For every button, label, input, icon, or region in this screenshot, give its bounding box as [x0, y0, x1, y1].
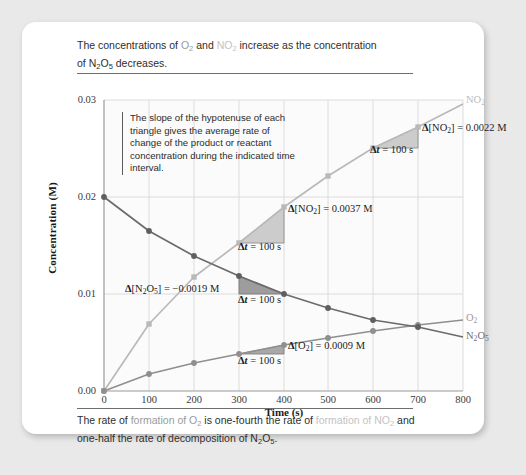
y-tick-002: 0.02 — [62, 191, 96, 202]
footer-text-c: and — [394, 414, 414, 426]
x-tick-200: 200 — [179, 394, 209, 405]
y-tick-003: 0.03 — [62, 94, 96, 105]
annotation-dt-no2-late: Δt = 100 s — [370, 144, 413, 155]
annotation-dt-o2-mid: Δt = 100 s — [238, 355, 281, 366]
annotation-delta-no2-mid: Δ[NO2] = 0.0037 M — [288, 203, 373, 216]
annotation-delta-no2-late: Δ[NO2] = 0.0022 M — [422, 122, 507, 135]
x-tick-400: 400 — [269, 394, 299, 405]
footer-formation-no2: formation of NO2 — [316, 414, 394, 426]
y-axis-title: Concentration (M) — [46, 158, 58, 298]
annotation-delta-n2o5-mid: Δ[N2O5] = −0.0019 M — [125, 283, 219, 296]
footer-text-b: is one-fourth the rate of — [201, 414, 315, 426]
annotation-dt-no2-mid: Δt = 100 s — [238, 241, 281, 252]
x-tick-300: 300 — [224, 394, 254, 405]
curve-label-no2: NO2 — [466, 94, 485, 107]
y-tick-001: 0.01 — [62, 288, 96, 299]
figure-footer-text: The rate of formation of O2 is one-fourt… — [77, 413, 462, 450]
x-tick-100: 100 — [134, 394, 164, 405]
x-tick-600: 600 — [358, 394, 388, 405]
annotation-delta-o2-mid: Δ[O2] = 0.0009 M — [288, 340, 365, 353]
x-tick-800: 800 — [448, 394, 478, 405]
footer-divider — [77, 408, 413, 409]
slope-explanation-note: The slope of the hypotenuse of each tria… — [122, 112, 295, 175]
x-tick-700: 700 — [403, 394, 433, 405]
footer-text-a: The rate of — [77, 414, 131, 426]
x-tick-0: 0 — [89, 394, 119, 405]
curve-label-o2: O2 — [466, 312, 477, 325]
footer-formation-o2: formation of O2 — [131, 414, 202, 426]
annotation-dt-n2o5-mid: Δt = 100 s — [238, 294, 281, 305]
footer-text-d: one-half the rate of decomposition of N2… — [77, 432, 277, 444]
figure-card: The concentrations of O2 and NO2 increas… — [22, 22, 484, 434]
x-tick-500: 500 — [313, 394, 343, 405]
curve-label-n2o5: N2O5 — [466, 330, 489, 343]
